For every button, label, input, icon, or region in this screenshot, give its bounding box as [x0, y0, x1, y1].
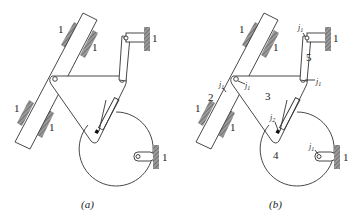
ground-arm-top — [307, 33, 326, 42]
triangle-link — [50, 76, 127, 143]
panel-b: 1 1 1 1 1 1 2 3 4 5 j1 j1 j1 j1 j2 — [195, 13, 349, 211]
ground-block-disc — [334, 145, 340, 169]
ground-label: 1 — [162, 151, 168, 163]
link-label-5: 5 — [306, 51, 312, 63]
link-label-2: 2 — [208, 91, 214, 103]
ground-label: 1 — [230, 121, 236, 133]
svg-text:j1: j1 — [308, 142, 314, 152]
ground-label: 1 — [49, 121, 55, 133]
svg-text:j1: j1 — [297, 23, 303, 33]
svg-text:j1: j1 — [218, 80, 224, 90]
caption-a: (a) — [81, 198, 94, 211]
ground-label: 1 — [195, 102, 201, 114]
caption-b: (b) — [269, 198, 282, 211]
panel-a: 1 1 1 1 1 1 (a) — [14, 13, 168, 211]
pivot-left — [234, 77, 239, 82]
ground-label: 1 — [92, 41, 98, 53]
joint-label-disc-pivot: j1 — [308, 142, 318, 154]
triangle-link — [231, 76, 308, 143]
pivot-left — [53, 77, 58, 82]
joint-label-top: j1 — [297, 23, 305, 36]
ground-label: 1 — [343, 151, 349, 163]
ground-label: 1 — [273, 41, 279, 53]
ground-block-top — [144, 27, 150, 51]
ground-arm-top — [126, 33, 145, 42]
joint-label-slider: j1 — [218, 80, 226, 92]
rocker-link — [119, 36, 130, 81]
ground-block-disc — [153, 145, 159, 169]
ground-label: 1 — [239, 23, 245, 35]
ground-label: 1 — [58, 23, 64, 35]
ground-label: 1 — [333, 32, 339, 44]
ground-label: 1 — [152, 32, 158, 44]
mechanism-diagram: 1 1 1 1 1 1 (a) 1 1 1 1 1 1 — [0, 0, 358, 222]
link-label-3: 3 — [265, 90, 271, 102]
ground-label: 1 — [14, 102, 20, 114]
ground-block-top — [325, 27, 331, 51]
link-label-4: 4 — [273, 149, 279, 161]
svg-text:j1: j1 — [315, 77, 321, 87]
